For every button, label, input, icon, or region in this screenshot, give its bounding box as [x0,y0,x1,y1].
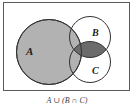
set-b-label: B [91,27,99,38]
caption: A ∪ (B ∩ C) [46,96,88,104]
set-c-label: C [92,65,99,76]
venn-diagram-canvas: A B C A ∪ (B ∩ C) [0,0,135,104]
venn-diagram: A B C A ∪ (B ∩ C) [0,0,135,104]
set-a-label: A [25,45,33,57]
